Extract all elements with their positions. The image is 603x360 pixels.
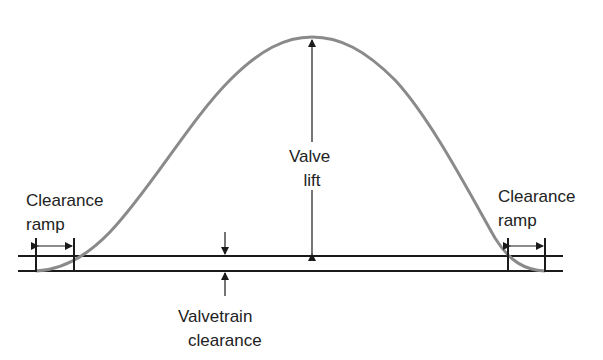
right-clearance-ramp-label: Clearance ramp (498, 187, 580, 230)
valvetrain-clearance-label: Valvetrain clearance (178, 307, 262, 350)
valve-lift-diagram: Valve lift Clearance ramp Clearance ramp… (0, 0, 603, 360)
left-clearance-ramp-label: Clearance ramp (26, 191, 108, 234)
